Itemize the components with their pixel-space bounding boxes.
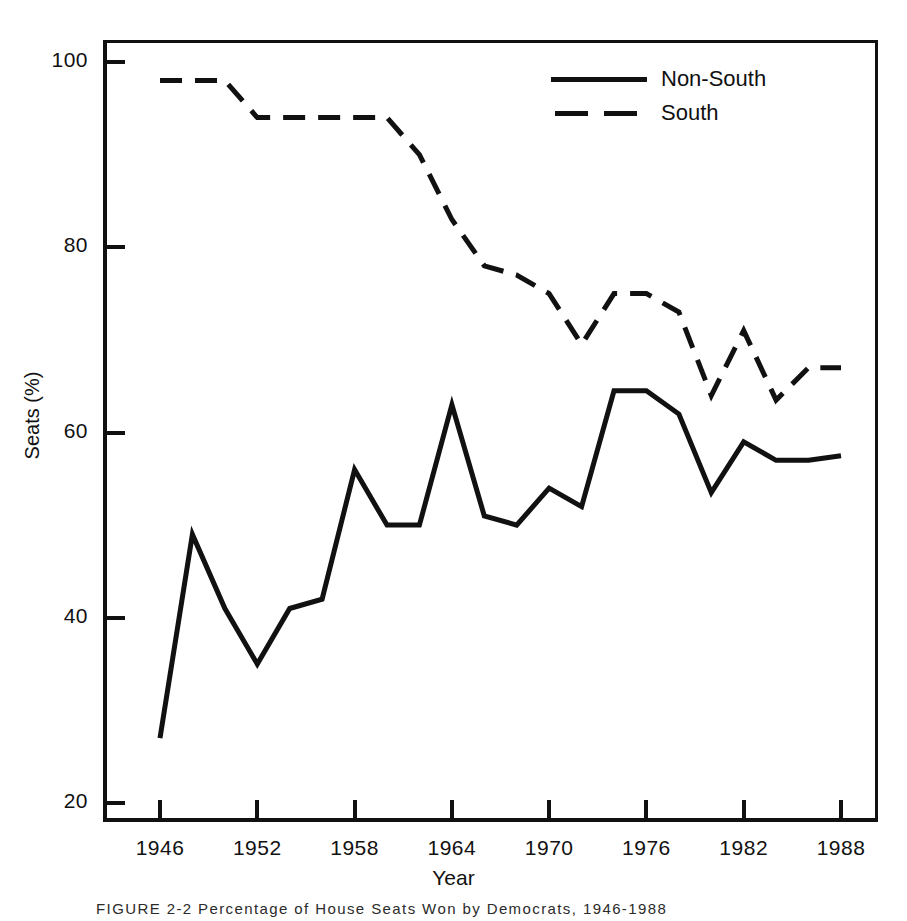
y-tick-40 — [107, 616, 125, 620]
figure-caption: FIGURE 2-2 Percentage of House Seats Won… — [96, 900, 856, 917]
y-tick-60 — [107, 431, 125, 435]
figure-chart: 20406080100 1946195219581964197019761982… — [0, 0, 907, 921]
series-layer — [0, 0, 907, 921]
x-tick-1970 — [547, 800, 551, 818]
legend-key-solid-icon — [551, 71, 647, 87]
legend-item-non-south: Non-South — [551, 62, 851, 96]
y-axis-title: Seats (%) — [21, 336, 44, 496]
y-tick-label-80: 80 — [14, 233, 88, 257]
plot-frame-top — [103, 40, 878, 43]
x-tick-1964 — [450, 800, 454, 818]
x-tick-1952 — [255, 800, 259, 818]
y-tick-80 — [107, 245, 125, 249]
series-line-non-south — [160, 391, 841, 738]
x-axis-title: Year — [0, 866, 907, 890]
legend: Non-South South — [551, 62, 851, 130]
x-tick-label-1988: 1988 — [796, 836, 886, 860]
plot-frame-bottom — [103, 818, 878, 822]
x-tick-1976 — [644, 800, 648, 818]
x-tick-label-1982: 1982 — [699, 836, 789, 860]
x-tick-label-1976: 1976 — [601, 836, 691, 860]
x-tick-label-1970: 1970 — [504, 836, 594, 860]
legend-label-non-south: Non-South — [661, 66, 766, 92]
y-tick-label-20: 20 — [14, 789, 88, 813]
x-tick-1988 — [839, 800, 843, 818]
x-tick-1982 — [742, 800, 746, 818]
y-tick-label-40: 40 — [14, 604, 88, 628]
y-tick-20 — [107, 801, 125, 805]
x-tick-1946 — [158, 800, 162, 818]
x-tick-1958 — [353, 800, 357, 818]
x-tick-label-1964: 1964 — [407, 836, 497, 860]
legend-key-dashed-icon — [551, 105, 647, 121]
x-tick-label-1958: 1958 — [310, 836, 400, 860]
legend-item-south: South — [551, 96, 851, 130]
x-tick-label-1952: 1952 — [212, 836, 302, 860]
y-tick-label-100: 100 — [14, 48, 88, 72]
plot-frame-right — [875, 40, 878, 822]
x-tick-label-1946: 1946 — [115, 836, 205, 860]
legend-label-south: South — [661, 100, 719, 126]
y-tick-100 — [107, 60, 125, 64]
